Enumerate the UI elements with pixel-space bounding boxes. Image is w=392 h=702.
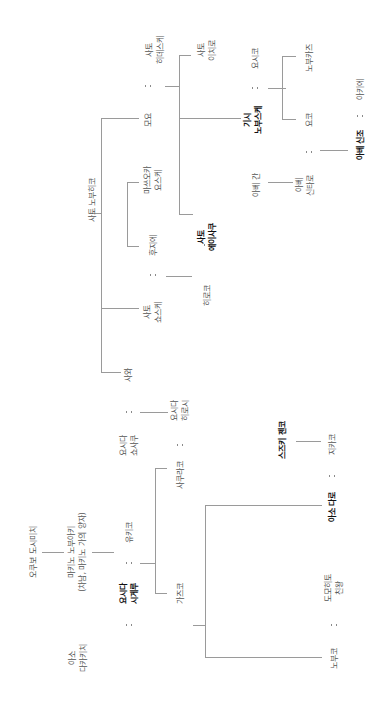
marriage-marker (177, 444, 183, 446)
marriage-marker (150, 274, 156, 276)
person-sato-eisaku: 사토 에이사쿠 (196, 223, 218, 251)
person-aso-takakichi: 아소 다카키치 (67, 644, 89, 672)
connector-line (205, 505, 206, 658)
connector-line (166, 276, 192, 277)
connector-line (179, 55, 191, 56)
connector-line (101, 308, 139, 309)
person-tomohito: 도모히토 친왕 (323, 574, 345, 602)
connector-line (127, 182, 128, 246)
person-abe-shinzo: 아베 신조 (355, 130, 366, 161)
marriage-marker (252, 87, 258, 89)
person-yoshiko: 요시코 (250, 48, 261, 69)
person-sato-hidesuke: 사토 히데스케 (144, 36, 166, 64)
marriage-marker (126, 624, 132, 626)
connector-line (127, 182, 139, 183)
person-yoshida-shigeru: 요시다 시게루 (118, 583, 140, 604)
connector-line (268, 182, 293, 183)
marriage-marker (306, 151, 312, 153)
connector-line (92, 552, 114, 553)
person-sawa: 사와 (123, 368, 134, 382)
person-nobukazu: 노부카즈 (304, 44, 315, 72)
connector-line (205, 505, 322, 506)
connector-line (179, 118, 241, 119)
connector-line (165, 86, 179, 87)
connector-line (42, 552, 64, 553)
connector-line (101, 372, 121, 373)
person-fujie: 후지에 (148, 235, 159, 256)
connector-line (155, 593, 167, 594)
connector-line (179, 55, 180, 215)
connector-line (282, 119, 296, 120)
person-moyo: 모요 (143, 113, 154, 127)
connector-line (179, 214, 193, 215)
connector-line (101, 118, 139, 119)
person-suzuki-zenko: 스즈키 젠코 (277, 421, 288, 459)
person-hiroko: 히로코 (202, 285, 213, 306)
connector-line (320, 150, 348, 151)
person-yoshida-hiroshi: 요시다 히로시 (169, 400, 191, 421)
person-aso-taro: 아소 다로 (327, 492, 338, 523)
connector-line (282, 56, 296, 57)
connector-line (101, 118, 102, 373)
person-abe-shintaro: 아베 신타로 (294, 175, 316, 196)
person-makino-nobuaki: 마키노 노부아키 (차남, 마키노 가의 양자) (66, 512, 88, 591)
connector-line (140, 412, 168, 413)
person-kishi-nobusuke: 기시 노부스케 (242, 106, 264, 134)
person-chikako: 지카코 (327, 434, 338, 455)
marriage-marker (126, 411, 132, 413)
person-yukiko: 유키코 (124, 522, 135, 543)
connector-line (140, 563, 156, 564)
marriage-marker (357, 115, 363, 117)
person-akie: 아키에 (355, 79, 366, 100)
person-kazuko: 가즈코 (175, 583, 186, 604)
connector-line (268, 88, 286, 89)
marriage-marker (126, 562, 132, 564)
connector-line (296, 441, 321, 442)
connector-line (282, 56, 283, 120)
connector-line (205, 657, 322, 658)
person-masuoka-yosuke: 마쓰오카 요스케 (142, 166, 164, 194)
person-sato-sosuke: 사토 쇼스케 (142, 302, 164, 323)
person-okubo-toshimichi: 오쿠보 도시미치 (28, 526, 39, 578)
person-sato-ichiro: 사토 이치로 (196, 40, 218, 61)
person-sakurako: 사쿠라코 (175, 461, 186, 489)
person-yoshida-shosaku: 요시다 쇼사쿠 (118, 435, 140, 456)
connector-line (127, 246, 139, 247)
marriage-marker (145, 85, 151, 87)
person-yoko: 요코 (304, 113, 315, 127)
marriage-marker (329, 475, 335, 477)
connector-line (155, 468, 167, 469)
marriage-marker (331, 624, 337, 626)
connector-line (155, 468, 156, 594)
person-nobuko: 노부코 (329, 648, 340, 669)
family-tree-diagram: 사토 노부히코 모요 사토 히데스케 사토 이치로 기시 노부스케 요시코 노부… (0, 0, 392, 702)
person-abe-kan: 아베 간 (251, 173, 262, 197)
person-sato-noburo: 사토 노부히코 (87, 178, 98, 223)
